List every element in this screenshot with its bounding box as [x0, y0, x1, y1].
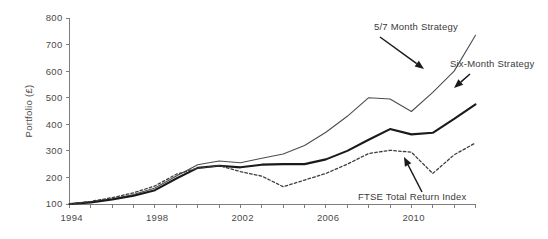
x-axis-tick-label: 2010 [402, 212, 424, 223]
y-axis-tick-label: 300 [46, 145, 63, 156]
portfolio-line-chart: 1002003004005006007008001994199820022006… [0, 0, 548, 239]
x-axis-tick-label: 1998 [146, 212, 168, 223]
chart-figure: 1002003004005006007008001994199820022006… [0, 0, 548, 239]
annotation-5-7-month-strategy-label: 5/7 Month Strategy [374, 21, 458, 32]
annotation-six-month-strategy-arrow-shaft [461, 74, 470, 82]
y-axis-tick-label: 200 [46, 172, 63, 183]
annotation-ftse-total-return-index-arrow-shaft [408, 165, 422, 192]
annotation-5-7-month-strategy-arrow-shaft [380, 37, 417, 64]
y-axis-tick-label: 100 [46, 198, 63, 209]
y-axis-tick-label: 500 [46, 92, 63, 103]
y-axis-tick-label: 600 [46, 66, 63, 77]
y-axis-title: Portfolio (£) [23, 84, 34, 137]
y-axis-tick-label: 400 [46, 119, 63, 130]
x-axis-tick-label: 2006 [317, 212, 339, 223]
x-axis-tick-label: 2002 [231, 212, 253, 223]
y-axis-tick-label: 700 [46, 39, 63, 50]
x-axis-tick-label: 1994 [61, 212, 83, 223]
annotation-ftse-total-return-index-arrow-head [404, 157, 411, 167]
annotation-six-month-strategy-label: Six-Month Strategy [450, 58, 534, 69]
series-line-six-month-strategy [70, 104, 476, 204]
y-axis-tick-label: 800 [46, 12, 63, 23]
chart-annotations: 5/7 Month StrategySix-Month StrategyFTSE… [358, 21, 534, 202]
annotation-5-7-month-strategy-arrow-head [415, 61, 424, 69]
annotation-ftse-total-return-index-label: FTSE Total Return Index [358, 191, 466, 202]
